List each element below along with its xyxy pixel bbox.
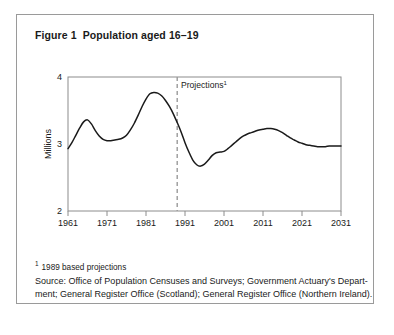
footnote: 11989 based projections — [35, 260, 126, 272]
x-tick-label-1991: 1991 — [175, 218, 195, 228]
projections-annotation: Projections1 — [181, 80, 228, 91]
footnote-text: 1989 based projections — [42, 263, 127, 272]
y-axis: 4 3 2 Millions — [43, 72, 62, 216]
x-tick-label-1981: 1981 — [136, 218, 156, 228]
y-tick-label-3: 3 — [57, 139, 62, 149]
projections-label-text: Projections — [181, 80, 224, 90]
population-line-path — [68, 92, 341, 166]
x-tick-label-1961: 1961 — [58, 218, 78, 228]
x-tick-label-2021: 2021 — [292, 218, 312, 228]
source-line-2: ment; General Register Office (Scotland)… — [35, 288, 361, 301]
y-tick-label-4: 4 — [57, 72, 62, 82]
figure-container: Figure 1 Population aged 16–19 4 3 2 Mil… — [16, 14, 374, 304]
projections-label: Projections1 — [181, 80, 228, 91]
source-note: Source: Office of Population Censuses an… — [35, 275, 361, 301]
y-axis-label: Millions — [43, 129, 53, 160]
projections-label-superscript: 1 — [224, 80, 228, 86]
plot-frame — [68, 77, 341, 211]
x-tick-label-2031: 2031 — [331, 218, 351, 228]
x-tick-label-2001: 2001 — [214, 218, 234, 228]
x-axis: 1961 1971 1981 1991 2001 2011 2021 2031 — [58, 211, 351, 228]
x-tick-label-1971: 1971 — [97, 218, 117, 228]
source-line-1: Source: Office of Population Censuses an… — [35, 275, 361, 288]
data-series-line — [68, 92, 341, 166]
x-tick-label-2011: 2011 — [253, 218, 272, 228]
y-tick-label-2: 2 — [57, 206, 62, 216]
footnote-marker: 1 — [35, 260, 39, 267]
